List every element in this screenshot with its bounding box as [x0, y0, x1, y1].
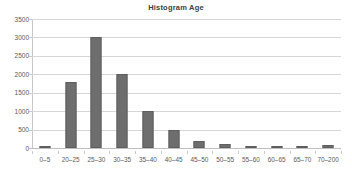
x-tickmark: [238, 151, 239, 154]
x-tickmark: [315, 151, 316, 154]
y-tick-label-3000: 3000: [3, 34, 29, 41]
bar-slot: [212, 19, 238, 148]
x-tick-label: 45–50: [187, 156, 213, 164]
x-tick-label: 20–25: [58, 156, 84, 164]
bar-slot: [264, 19, 290, 148]
x-tickmark: [84, 151, 85, 154]
bar-slot: [238, 19, 264, 148]
x-tickmark: [32, 151, 33, 154]
chart-title: Histogram Age: [0, 3, 352, 13]
bar[interactable]: [220, 144, 231, 148]
x-tick-label: 30–35: [109, 156, 135, 164]
x-tickmark: [290, 151, 291, 154]
histogram-chart: Histogram Age 35003000250020001500100050…: [0, 0, 352, 173]
x-tickmark: [187, 151, 188, 154]
x-tick-label: 35–40: [135, 156, 161, 164]
y-tick-label-1500: 1500: [3, 89, 29, 96]
x-tick-label: 70–200: [315, 156, 341, 164]
bar[interactable]: [194, 141, 205, 148]
bar-slot: [32, 19, 58, 148]
bar-slot: [290, 19, 316, 148]
bar[interactable]: [245, 146, 256, 148]
y-tick-label-2000: 2000: [3, 71, 29, 78]
x-tick-label: 60–65: [264, 156, 290, 164]
x-tickmark: [264, 151, 265, 154]
bar[interactable]: [91, 37, 102, 148]
bar-slot: [315, 19, 341, 148]
bar-slot: [161, 19, 187, 148]
bar-slot: [187, 19, 213, 148]
bar-slot: [84, 19, 110, 148]
bars-layer: [32, 19, 341, 148]
x-tickmark: [58, 151, 59, 154]
bar[interactable]: [323, 145, 334, 148]
bar[interactable]: [271, 146, 282, 148]
x-tickmark: [341, 151, 342, 154]
bar[interactable]: [39, 146, 50, 148]
x-tick-label: 0–5: [32, 156, 58, 164]
y-tick-label-2500: 2500: [3, 52, 29, 59]
x-tick-label: 50–55: [212, 156, 238, 164]
bar[interactable]: [168, 130, 179, 148]
y-tick-label-0: 0: [3, 145, 29, 152]
x-tick-label: 65–70: [290, 156, 316, 164]
bar[interactable]: [65, 82, 76, 148]
x-tick-label: 40–45: [161, 156, 187, 164]
gridline-0: [32, 148, 341, 149]
bar[interactable]: [142, 111, 153, 148]
x-tickmark: [161, 151, 162, 154]
x-tick-label: 25–30: [84, 156, 110, 164]
bar[interactable]: [117, 74, 128, 148]
y-tick-label-500: 500: [3, 126, 29, 133]
bar[interactable]: [297, 146, 308, 148]
x-tick-label: 55–60: [238, 156, 264, 164]
x-tickmark: [135, 151, 136, 154]
x-tickmark: [212, 151, 213, 154]
bar-slot: [58, 19, 84, 148]
y-tick-label-3500: 3500: [3, 16, 29, 23]
bar-slot: [109, 19, 135, 148]
x-tickmark: [109, 151, 110, 154]
y-axis-labels: 3500300025002000150010005000: [0, 0, 29, 173]
bar-slot: [135, 19, 161, 148]
x-axis-labels: 0–520–2525–3030–3535–4040–4545–5050–5555…: [32, 151, 341, 171]
y-tick-label-1000: 1000: [3, 108, 29, 115]
